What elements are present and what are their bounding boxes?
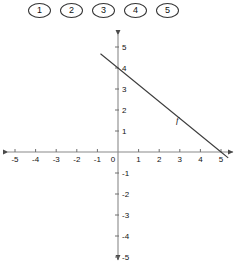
x-tick-label: 0 xyxy=(111,155,116,164)
y-tick-label: 2 xyxy=(122,106,127,115)
function-label-f: f xyxy=(176,115,180,125)
x-tick-label: 2 xyxy=(157,155,162,164)
function-line-group: f xyxy=(100,54,228,158)
x-tick-label: -5 xyxy=(11,155,19,164)
answer-choice-1-label: 1 xyxy=(29,4,50,17)
answer-choice-5-label: 5 xyxy=(157,4,178,17)
y-tick-label: -3 xyxy=(122,211,130,220)
x-tick-label: 1 xyxy=(136,155,141,164)
x-tick-label: 3 xyxy=(178,155,183,164)
axes xyxy=(8,35,233,260)
y-tick-label: -4 xyxy=(122,232,130,241)
function-line-f xyxy=(100,54,228,158)
y-tick-label: -5 xyxy=(122,253,130,262)
answer-choice-1[interactable]: 1 xyxy=(28,3,51,18)
x-tick-label: -2 xyxy=(73,155,81,164)
y-tick-label: 3 xyxy=(122,85,127,94)
coordinate-plane: -5-4-3-2-1012345 54321-1-2-3-4-5 f xyxy=(0,24,239,266)
answer-choice-bar: 1 2 3 4 5 xyxy=(0,0,239,24)
answer-choice-4[interactable]: 4 xyxy=(124,3,147,18)
answer-choice-4-label: 4 xyxy=(125,4,146,17)
x-tick-label: -3 xyxy=(53,155,61,164)
y-tick-label: 1 xyxy=(122,127,127,136)
x-tick-label: 4 xyxy=(198,155,203,164)
y-tick-label: 5 xyxy=(122,43,127,52)
answer-choice-2[interactable]: 2 xyxy=(60,3,83,18)
y-tick-label: -2 xyxy=(122,190,130,199)
answer-choice-2-label: 2 xyxy=(61,4,82,17)
answer-choice-3-label: 3 xyxy=(93,4,114,17)
graph-svg: -5-4-3-2-1012345 54321-1-2-3-4-5 f xyxy=(0,24,239,266)
x-tick-label: -1 xyxy=(94,155,102,164)
answer-choice-5[interactable]: 5 xyxy=(156,3,179,18)
y-tick-label: -1 xyxy=(122,169,130,178)
answer-choice-3[interactable]: 3 xyxy=(92,3,115,18)
x-tick-label: -4 xyxy=(32,155,40,164)
x-tick-label: 5 xyxy=(219,155,224,164)
